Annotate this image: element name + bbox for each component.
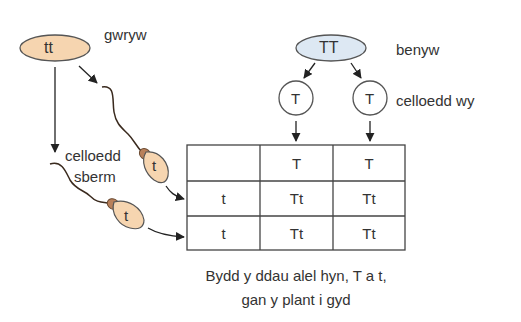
punnett-row-2-sperm: t — [187, 216, 260, 250]
punnett-row-2-offspring-1: Tt — [260, 216, 333, 250]
female-genotype: TT — [319, 40, 339, 56]
sperm-1-tail — [102, 87, 142, 152]
punnett-header-egg-1: T — [260, 145, 333, 181]
male-genotype: tt — [44, 40, 53, 56]
egg-cell-1-allele: T — [291, 91, 300, 106]
female-label: benyw — [396, 42, 439, 57]
caption-line-1: Bydd y ddau alel hyn, T a t, — [176, 268, 416, 283]
punnett-row-1-sperm: t — [187, 181, 260, 216]
arrow-female-to-egg-1 — [304, 63, 315, 78]
sperm-2-head — [113, 201, 144, 229]
punnett-row-2-offspring-2: Tt — [333, 216, 405, 250]
arrow-sperm-1-to-row-1 — [166, 186, 184, 199]
arrow-male-to-sperm-1 — [79, 66, 97, 83]
arrow-female-to-egg-2 — [351, 63, 361, 78]
male-label: gwryw — [104, 27, 147, 42]
egg-cell-2-allele: T — [365, 91, 374, 106]
sperm-cells-label-line1: celloedd — [65, 148, 121, 163]
punnett-row-1-offspring-1: Tt — [260, 181, 333, 216]
arrow-sperm-2-to-row-2 — [148, 228, 184, 237]
genetic-cross-diagram: tt gwryw TT benyw T T celloedd wy celloe… — [0, 0, 521, 322]
sperm-1-allele: t — [152, 158, 156, 173]
sperm-cells-label-line2: sberm — [74, 169, 116, 184]
male-parent-ellipse — [20, 35, 90, 61]
egg-cells-label: celloedd wy — [396, 93, 474, 108]
punnett-header-corner — [187, 145, 260, 181]
caption-line-2: gan y plant i gyd — [176, 292, 416, 307]
sperm-2-allele: t — [124, 208, 128, 223]
punnett-header-egg-2: T — [333, 145, 405, 181]
punnett-row-1-offspring-2: Tt — [333, 181, 405, 216]
